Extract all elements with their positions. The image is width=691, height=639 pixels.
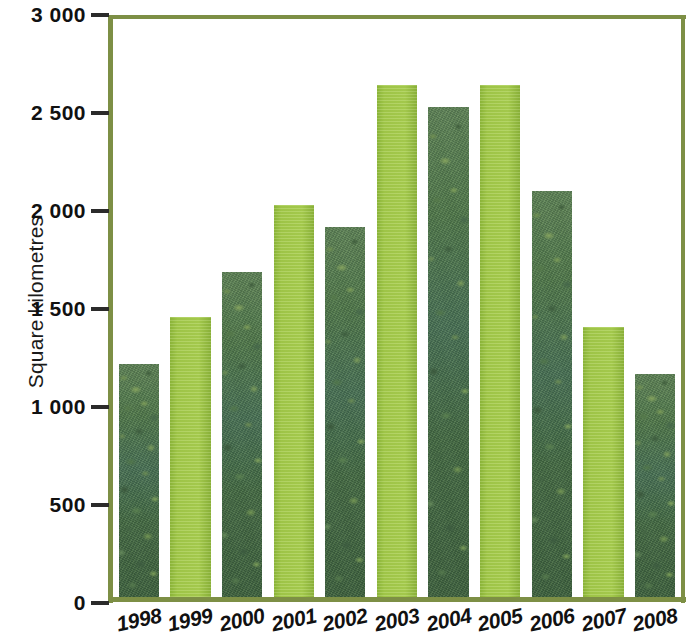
bars-layer	[113, 15, 681, 597]
bar-2003	[377, 85, 417, 597]
y-tick-mark	[91, 601, 109, 605]
bar-2007	[583, 327, 623, 597]
x-tick-label-2001: 2001	[269, 604, 319, 637]
bar-2004	[428, 107, 468, 597]
bar-1998	[119, 364, 159, 597]
x-tick-label-2007: 2007	[579, 604, 629, 637]
y-tick-mark	[91, 307, 109, 311]
y-tick-label: 0	[74, 591, 86, 615]
x-axis-labels: 1998199920002001200220032004200520062007…	[108, 604, 685, 639]
y-tick-label: 2 500	[31, 101, 86, 125]
x-tick-label-1998: 1998	[114, 604, 164, 637]
y-tick-label: 1 500	[31, 297, 86, 321]
bar-2006	[532, 191, 572, 597]
bar-2000	[222, 272, 262, 597]
bar-2001	[274, 205, 314, 597]
x-tick-label-2004: 2004	[424, 604, 474, 637]
x-tick-label-2002: 2002	[321, 604, 371, 637]
plot-area: 05001 0001 5002 0002 5003 000	[108, 15, 685, 602]
y-tick-mark	[91, 13, 109, 17]
y-tick-mark	[91, 111, 109, 115]
y-tick-label: 2 000	[31, 199, 86, 223]
x-tick-label-2006: 2006	[527, 604, 577, 637]
bar-2005	[480, 85, 520, 597]
axis-line-right	[681, 15, 685, 603]
x-tick-label-2003: 2003	[372, 604, 422, 637]
y-tick-mark	[91, 405, 109, 409]
bar-1999	[170, 317, 210, 597]
y-tick-label: 500	[49, 493, 86, 517]
y-tick-label: 1 000	[31, 395, 86, 419]
x-tick-label-1999: 1999	[166, 604, 216, 637]
x-tick-label-2005: 2005	[476, 604, 526, 637]
bar-2002	[325, 227, 365, 597]
x-tick-label-2000: 2000	[217, 604, 267, 637]
bar-chart: Square kilometres 05001 0001 5002 0002 5…	[0, 0, 691, 639]
x-axis-line	[108, 597, 686, 602]
y-tick-mark	[91, 503, 109, 507]
y-tick-mark	[91, 209, 109, 213]
x-tick-label-2008: 2008	[630, 604, 680, 637]
y-tick-label: 3 000	[31, 3, 86, 27]
bar-2008	[635, 374, 675, 597]
